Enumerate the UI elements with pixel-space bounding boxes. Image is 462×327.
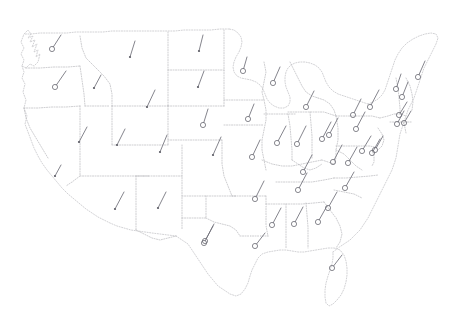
border-wv-va-md bbox=[336, 150, 362, 170]
station-marker bbox=[240, 57, 247, 74]
station-marker bbox=[274, 126, 286, 146]
border-ok-tx-red-river bbox=[206, 218, 240, 236]
pacific-northwest-coast bbox=[21, 30, 40, 68]
station-wind-shaft bbox=[257, 233, 265, 244]
station-marker bbox=[116, 129, 125, 146]
station-wind-shaft bbox=[244, 57, 247, 69]
border-va-nc bbox=[334, 175, 378, 178]
station-wind-shaft bbox=[213, 137, 221, 154]
station-marker bbox=[93, 75, 101, 89]
station-circle-symbol bbox=[252, 243, 257, 248]
station-marker bbox=[269, 208, 281, 228]
station-marker bbox=[159, 135, 167, 153]
station-marker bbox=[252, 181, 264, 202]
station-wind-shaft bbox=[56, 71, 66, 85]
border-ia-il-mo bbox=[262, 100, 266, 170]
station-wind-shaft bbox=[158, 192, 166, 207]
station-circle-symbol bbox=[367, 104, 372, 109]
station-marker bbox=[146, 90, 155, 108]
station-wind-shaft bbox=[307, 91, 314, 105]
station-marker bbox=[394, 111, 404, 127]
border-id-wa-or bbox=[80, 66, 85, 106]
station-marker bbox=[342, 172, 354, 191]
station-wind-shaft bbox=[160, 135, 167, 151]
station-circle-symbol bbox=[240, 68, 245, 73]
station-marker bbox=[129, 41, 135, 58]
station-marker bbox=[249, 140, 260, 160]
station-dot-symbol bbox=[157, 207, 159, 209]
station-circle-symbol bbox=[326, 132, 331, 137]
station-marker bbox=[52, 71, 66, 90]
station-circle-symbol bbox=[245, 116, 250, 121]
border-nc-sc bbox=[334, 190, 362, 198]
station-marker bbox=[300, 155, 312, 175]
station-circle-symbol bbox=[353, 126, 358, 131]
station-wind-shaft bbox=[198, 71, 204, 86]
station-dot-symbol bbox=[78, 141, 80, 143]
station-wind-shaft bbox=[278, 126, 286, 141]
border-ar-ms-tn bbox=[266, 196, 268, 236]
station-dot-symbol bbox=[159, 151, 161, 153]
station-wind-shaft bbox=[273, 208, 281, 223]
station-circle-symbol bbox=[345, 160, 350, 165]
station-wind-shaft bbox=[204, 109, 208, 123]
border-or-ca-nv bbox=[24, 106, 80, 108]
station-marker bbox=[252, 233, 265, 249]
station-wind-shaft bbox=[354, 99, 361, 113]
station-marker bbox=[325, 192, 337, 211]
station-dot-symbol bbox=[212, 154, 214, 156]
border-in-oh bbox=[310, 112, 312, 158]
station-marker bbox=[270, 67, 280, 86]
station-circle-symbol bbox=[303, 104, 308, 109]
station-circle-symbol bbox=[52, 84, 57, 89]
station-circle-symbol bbox=[342, 185, 347, 190]
station-marker bbox=[78, 127, 87, 143]
station-circle-symbol bbox=[269, 222, 274, 227]
station-wind-shaft bbox=[298, 126, 306, 142]
station-wind-shaft bbox=[346, 172, 354, 186]
station-circle-symbol bbox=[249, 154, 254, 159]
station-wind-shaft bbox=[357, 112, 365, 127]
atlantic-coast-outline bbox=[333, 33, 438, 252]
station-circle-symbol bbox=[350, 112, 355, 117]
state-boundaries-group bbox=[24, 30, 413, 248]
border-id-mt-north bbox=[80, 36, 112, 106]
station-circle-symbol bbox=[300, 169, 305, 174]
station-circle-symbol bbox=[270, 80, 275, 85]
station-wind-shaft bbox=[56, 165, 61, 175]
station-dot-symbol bbox=[198, 50, 200, 52]
station-dot-symbol bbox=[93, 87, 95, 89]
station-marker bbox=[399, 82, 408, 100]
station-wind-shaft bbox=[334, 255, 342, 266]
station-wind-shaft bbox=[323, 122, 331, 137]
station-dot-symbol bbox=[116, 144, 118, 146]
station-marker bbox=[345, 147, 357, 166]
station-dot-symbol bbox=[114, 208, 116, 210]
station-marker bbox=[49, 35, 61, 52]
station-wind-shaft bbox=[373, 139, 380, 151]
west-coast-outline bbox=[22, 66, 176, 236]
us-station-wind-vector-map bbox=[0, 0, 462, 327]
station-marker bbox=[157, 192, 166, 209]
border-ca-or-inner bbox=[24, 108, 48, 158]
station-circle-symbol bbox=[369, 150, 374, 155]
station-wind-shaft bbox=[319, 206, 327, 220]
map-canvas bbox=[0, 0, 462, 327]
station-wind-shaft bbox=[329, 192, 337, 206]
station-marker bbox=[353, 112, 365, 132]
station-dot-symbol bbox=[146, 106, 148, 108]
station-circle-symbol bbox=[294, 141, 299, 146]
station-markers-layer bbox=[49, 35, 425, 271]
station-wind-shaft bbox=[253, 140, 260, 155]
gulf-coast-outline bbox=[176, 236, 347, 306]
station-wind-shaft bbox=[371, 90, 379, 105]
station-marker bbox=[367, 90, 379, 110]
border-mi-lower-peninsula bbox=[318, 98, 336, 116]
station-wind-shaft bbox=[403, 82, 408, 95]
station-wind-shaft bbox=[95, 75, 101, 87]
station-marker bbox=[319, 122, 331, 142]
station-wind-shaft bbox=[117, 129, 125, 144]
station-circle-symbol bbox=[399, 94, 404, 99]
station-circle-symbol bbox=[200, 122, 205, 127]
national-outline-group bbox=[21, 29, 438, 306]
